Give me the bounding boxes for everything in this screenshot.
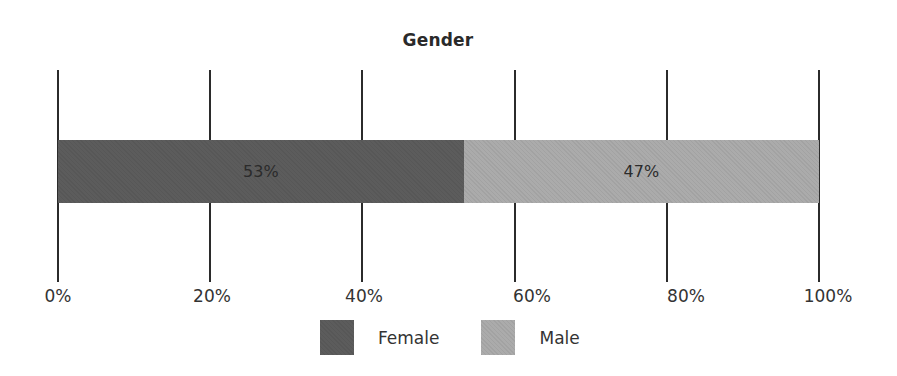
legend: Female Male: [320, 320, 622, 355]
chart-title: Gender: [0, 30, 876, 50]
legend-swatch-female: [320, 320, 354, 355]
bar-label-male: 47%: [624, 162, 660, 181]
legend-item-male[interactable]: Male: [481, 320, 579, 355]
plot-area: 53% 47%: [58, 70, 819, 282]
legend-item-female[interactable]: Female: [320, 320, 439, 355]
x-tick-0: 0%: [45, 286, 72, 306]
legend-label-male: Male: [539, 328, 579, 348]
x-tick-80: 80%: [667, 286, 705, 306]
x-tick-20: 20%: [193, 286, 231, 306]
bar-segment-female: 53%: [58, 140, 464, 203]
x-tick-100: 100%: [804, 286, 853, 306]
bar-segment-male: 47%: [464, 140, 819, 203]
legend-swatch-male: [481, 320, 515, 355]
x-tick-60: 60%: [513, 286, 551, 306]
bar-label-female: 53%: [243, 162, 279, 181]
x-tick-40: 40%: [345, 286, 383, 306]
legend-label-female: Female: [378, 328, 439, 348]
stacked-bar: 53% 47%: [58, 140, 819, 203]
